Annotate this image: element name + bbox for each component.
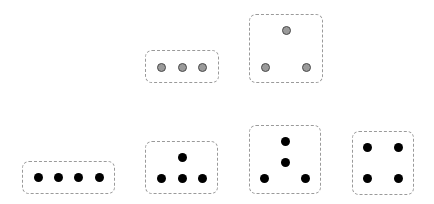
black-dot	[281, 158, 290, 167]
black-dot	[363, 174, 372, 183]
black-dot	[394, 143, 403, 152]
black-dot	[54, 173, 63, 182]
gray-dot	[282, 26, 291, 35]
gray-dot	[198, 63, 207, 72]
black-dot	[281, 137, 290, 146]
black-dot	[260, 174, 269, 183]
black-dot	[301, 174, 310, 183]
gray-dot	[302, 63, 311, 72]
black-dot	[34, 173, 43, 182]
cluster-box-bottom-4	[352, 131, 414, 195]
gray-dot	[261, 63, 270, 72]
black-dot	[394, 174, 403, 183]
black-dot	[74, 173, 83, 182]
gray-dot	[178, 63, 187, 72]
black-dot	[198, 174, 207, 183]
cluster-box-top-2	[249, 14, 323, 83]
black-dot	[363, 143, 372, 152]
cluster-box-bottom-2	[145, 141, 218, 194]
black-dot	[178, 174, 187, 183]
black-dot	[157, 174, 166, 183]
gray-dot	[157, 63, 166, 72]
black-dot	[178, 153, 187, 162]
black-dot	[95, 173, 104, 182]
